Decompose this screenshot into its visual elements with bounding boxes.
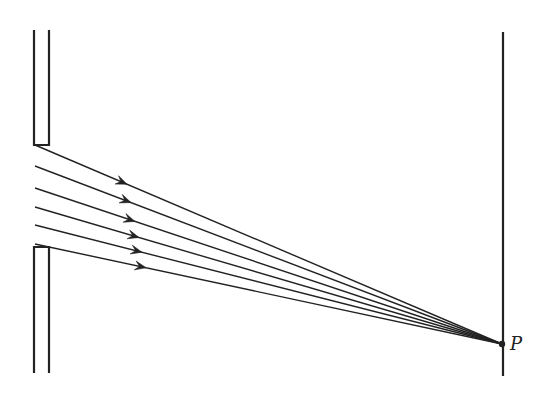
- upper-wall-outline: [34, 30, 49, 145]
- ray: [35, 145, 502, 344]
- ray: [35, 166, 502, 344]
- ray: [35, 207, 502, 344]
- slit-diffraction-diagram: P: [0, 0, 550, 396]
- lower-slit-wall: [34, 247, 49, 373]
- upper-slit-wall: [34, 30, 49, 145]
- lower-wall-outline: [34, 247, 49, 373]
- ray: [35, 244, 502, 344]
- ray: [35, 188, 502, 344]
- ray: [35, 225, 502, 344]
- point-p-label: P: [509, 333, 523, 354]
- ray-bundle: [35, 145, 502, 344]
- point-p-dot: [499, 341, 505, 347]
